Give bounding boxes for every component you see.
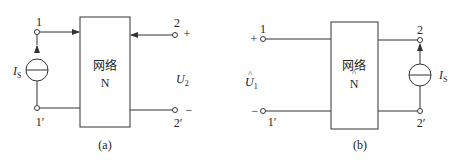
voltage-label-a: U2 [176,72,189,88]
block-label-b: N [350,77,359,91]
voltage-label-b: U1 [245,75,258,91]
terminal-2-a [173,33,178,38]
label-port2-a: 2 [174,16,180,30]
label-port2prime-a: 2′ [174,116,183,130]
caption-b: (b) [353,138,367,152]
figure-a-labels: 网络 N 1 1′ 2 2′ + − IS U2 (a) [12,15,193,152]
minus-sign-b: − [252,104,259,118]
terminal-2prime-a [173,108,178,113]
terminal-1-a [35,30,40,35]
plus-sign-a: + [184,27,191,41]
source-label-a: IS [12,64,21,80]
terminal-1prime-a [35,106,40,111]
label-port1prime-a: 1′ [36,115,45,129]
figure-b [261,22,432,129]
minus-sign-a: − [186,103,193,117]
plus-sign-b: + [251,32,258,46]
figure-b-labels: 网络 ^ N 1 1′ + − 2 2′ IS ^ U1 (b) [245,22,447,152]
terminal-2-b [418,38,423,43]
block-label-a: N [101,76,110,90]
terminal-1-b [261,37,266,42]
label-port2prime-b: 2′ [417,116,426,130]
source-label-b: IS [438,68,447,84]
block-label-cn-a: 网络 [93,58,117,73]
label-port2-b: 2 [417,23,423,37]
two-port-network-diagram: 网络 N 1 1′ 2 2′ + − IS U2 (a) 网络 ^ N 1 1′… [0,0,460,164]
label-port1prime-b: 1′ [268,115,277,129]
label-port1-b: 1 [260,22,266,36]
caption-a: (a) [98,138,111,152]
label-port1-a: 1 [36,15,42,29]
terminal-2prime-b [418,109,423,114]
terminal-1prime-b [261,109,266,114]
